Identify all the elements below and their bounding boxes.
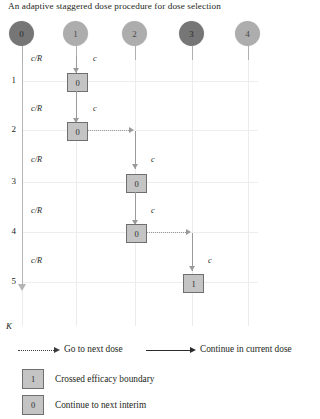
k-tick-3: 3 (2, 176, 16, 186)
continue-arrow-d2-k3-head (132, 164, 138, 169)
dose-node-2-label: 2 (132, 29, 137, 39)
page-title: An adaptive staggered dose procedure for… (8, 1, 221, 11)
edge-label-cr-4: c/R (31, 206, 42, 215)
k-tick-5: 5 (2, 276, 16, 286)
dose-node-0[interactable]: 0 (9, 21, 34, 46)
edge-label-c-5: c (208, 256, 212, 265)
k-axis-line (22, 38, 23, 288)
continue-arrow-d3-k5-head (189, 266, 195, 271)
decision-box-d1-k1-value: 0 (75, 78, 79, 88)
edge-label-c-4: c (151, 206, 155, 215)
dose-node-1-label: 1 (73, 29, 78, 39)
legend-dotted-arrow-line (18, 350, 54, 351)
legend-box-crossed-efficacy-label: Crossed efficacy boundary (55, 374, 154, 384)
dose-node-1[interactable]: 1 (63, 21, 88, 46)
dose-node-4-label: 4 (245, 29, 250, 39)
k-axis-arrowhead (18, 284, 26, 291)
decision-box-d3-k5-value: 1 (191, 279, 195, 289)
gridline-horizontal-k2 (22, 130, 258, 131)
decision-box-d2-k4-value: 0 (134, 229, 138, 239)
k-tick-1: 1 (2, 75, 16, 85)
decision-box-d1-k1[interactable]: 0 (67, 73, 88, 92)
decision-box-d1-k2[interactable]: 0 (67, 122, 88, 141)
edge-label-cr-3: c/R (31, 155, 42, 164)
decision-box-d1-k2-value: 0 (75, 127, 79, 137)
k-axis-label: K (6, 321, 12, 331)
k-tick-4: 4 (2, 226, 16, 236)
legend-box-continue-interim[interactable]: 0 (22, 395, 44, 415)
dose-node-0-label: 0 (19, 29, 24, 39)
dose-stem-4 (248, 46, 249, 60)
dose-node-3[interactable]: 3 (179, 21, 204, 46)
edge-label-c-1: c (93, 54, 97, 63)
dose-node-2[interactable]: 2 (122, 21, 147, 46)
decision-box-d2-k4[interactable]: 0 (126, 224, 147, 243)
k-tick-2: 2 (2, 124, 16, 134)
legend-box-continue-interim-label: Continue to next interim (55, 400, 146, 410)
gridline-horizontal-k1 (22, 81, 258, 82)
legend-dotted-arrow-head (54, 347, 60, 353)
dose-node-4[interactable]: 4 (235, 21, 260, 46)
legend-box-crossed-efficacy-value: 1 (31, 374, 35, 384)
next-dose-arrow-k2-head (129, 127, 134, 133)
edge-label-c-2: c (93, 104, 97, 113)
decision-box-d2-k3[interactable]: 0 (126, 174, 147, 193)
decision-box-d2-k3-value: 0 (134, 179, 138, 189)
dose-stem-2 (135, 46, 136, 60)
edge-label-cr-1: c/R (31, 54, 42, 63)
diagram-canvas: 0 1 2 3 4 1 2 3 4 5 K c/R c/R c/R c/R c/… (0, 16, 320, 326)
decision-box-d3-k5[interactable]: 1 (183, 274, 204, 293)
legend-dotted-arrow-label: Go to next dose (64, 344, 123, 354)
legend-solid-arrow-head (190, 347, 196, 353)
dose-stem-3 (192, 46, 193, 60)
edge-label-c-3: c (151, 155, 155, 164)
edge-label-cr-5: c/R (31, 256, 42, 265)
legend-solid-arrow-line (146, 350, 190, 351)
next-dose-arrow-k4-head (186, 229, 191, 235)
edge-label-cr-2: c/R (31, 104, 42, 113)
dose-stem-0 (22, 46, 23, 60)
gridline-horizontal-k5 (22, 282, 258, 283)
legend-solid-arrow-label: Continue in current dose (200, 344, 292, 354)
legend-box-continue-interim-value: 0 (31, 400, 35, 410)
next-dose-arrow-k2-line (88, 130, 129, 131)
dose-node-3-label: 3 (189, 29, 194, 39)
next-dose-arrow-k4-line (147, 232, 186, 233)
legend-box-crossed-efficacy[interactable]: 1 (22, 369, 44, 389)
